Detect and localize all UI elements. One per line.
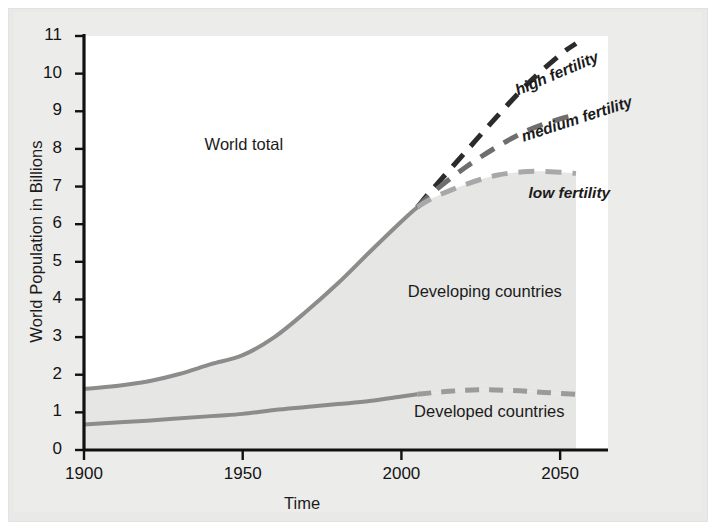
x-tick-label-2: 2000 [361,464,441,484]
x-tick-label-0: 1900 [44,464,124,484]
y-tick-label-1: 1 [28,401,62,421]
annotation-world-total: World total [205,135,284,154]
annotation-low-fertility: low fertility [528,184,610,202]
chart-page: 012345678910111900195020002050World Popu… [0,0,718,532]
y-tick-label-0: 0 [28,439,62,459]
y-tick-label-10: 10 [28,63,62,83]
annotation-developed-countries: Developed countries [414,402,564,421]
x-tick-label-3: 2050 [520,464,600,484]
annotation-developing-countries: Developing countries [408,282,562,301]
x-tick-label-1: 1950 [203,464,283,484]
y-tick-label-11: 11 [28,25,62,45]
y-axis-label: World Population in Billions [27,112,46,372]
population-chart [0,0,718,532]
x-axis-label: Time [284,494,320,513]
